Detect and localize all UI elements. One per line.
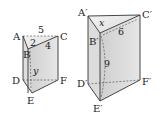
vertex-label-C: C <box>60 31 68 42</box>
measure-height-y: y <box>32 65 39 76</box>
vertex-label-B: B <box>23 49 30 60</box>
vertex-label-B-prime: B′ <box>89 36 99 47</box>
measure-AB: 2 <box>30 37 36 48</box>
vertex-label-E-prime: E′ <box>93 103 103 114</box>
vertex-label-F: F <box>60 75 67 86</box>
vertex-label-F-prime: F′ <box>142 76 152 87</box>
measure-AC: 5 <box>38 24 44 35</box>
vertex-label-E: E <box>27 95 34 106</box>
measure-height-9: 9 <box>104 58 110 69</box>
measure-6: 6 <box>118 26 124 37</box>
right-prism: A′ B′ C′ D′ E′ F′ x 6 9 <box>77 7 153 114</box>
vertex-label-A-prime: A′ <box>77 7 88 18</box>
vertex-label-A: A <box>12 31 21 42</box>
vertex-label-D: D <box>12 75 20 86</box>
left-prism: A B C D E F 5 2 4 y <box>12 24 68 106</box>
prisms-diagram: A B C D E F 5 2 4 y A′ B′ C′ D′ E′ F′ <box>0 0 159 115</box>
vertex-label-C-prime: C′ <box>142 9 153 20</box>
measure-BC: 4 <box>45 40 51 51</box>
measure-x: x <box>99 17 105 28</box>
vertex-label-D-prime: D′ <box>77 78 88 89</box>
